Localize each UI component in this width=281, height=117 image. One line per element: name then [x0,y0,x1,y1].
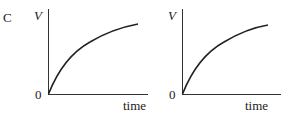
left-curve [49,24,139,94]
right-graph [182,9,281,95]
graphs-canvas [0,0,281,117]
right-curve [183,25,269,94]
left-graph [48,9,148,95]
